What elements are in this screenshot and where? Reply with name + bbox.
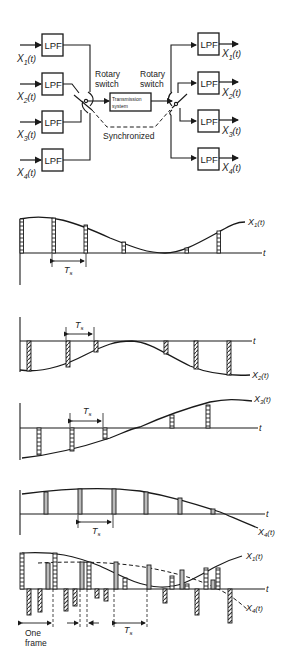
output-lpf-2: LPF X2(t) (198, 72, 241, 100)
left-switch-wiring (63, 45, 93, 160)
svg-text:LPF: LPF (201, 154, 219, 165)
svg-text:LPF: LPF (45, 79, 63, 90)
transmission-system-box: Transmission system (110, 93, 151, 111)
svg-text:Rotary: Rotary (140, 69, 166, 79)
svg-text:t: t (253, 336, 256, 346)
svg-text:t: t (266, 584, 269, 594)
ts-marker-4: Ts (78, 515, 113, 537)
svg-text:X1(t): X1(t) (247, 217, 265, 228)
block-diagram: LPF X1(t) LPF X2(t) LPF X3(t) LPF X4(t) (16, 33, 241, 180)
waveform-combined: One frame Ts t X1(t) X4(t) (20, 551, 269, 648)
svg-text:X3(t): X3(t) (221, 125, 241, 138)
svg-text:Ts: Ts (64, 265, 73, 276)
svg-text:X3(t): X3(t) (16, 129, 36, 142)
svg-text:t: t (259, 423, 262, 433)
svg-text:LPF: LPF (201, 39, 219, 50)
input-lpf-2: LPF X2(t) (16, 73, 63, 104)
ts-marker-1: Ts (52, 254, 86, 276)
right-rotary-switch-label: Rotary switch (140, 69, 166, 89)
svg-text:Ts: Ts (75, 320, 84, 331)
output-lpf-1: LPF X1(t) (198, 33, 241, 61)
svg-text:frame: frame (25, 638, 47, 648)
svg-text:X1(t): X1(t) (221, 48, 241, 61)
svg-text:X4(t): X4(t) (257, 527, 275, 538)
sync-link: Synchronized (92, 110, 170, 141)
output-lpf-4: LPF X4(t) (198, 148, 241, 175)
svg-text:X2(t): X2(t) (16, 91, 36, 104)
one-frame-label: One frame (25, 628, 47, 648)
svg-text:X1(t): X1(t) (16, 53, 36, 66)
ts-marker-3: Ts (70, 406, 103, 427)
svg-text:X3(t): X3(t) (253, 394, 271, 405)
svg-text:Ts: Ts (83, 406, 92, 417)
input-lpf-1: LPF X1(t) (16, 34, 63, 66)
svg-text:t: t (263, 248, 266, 258)
waveform-x3: Ts t X3(t) (20, 394, 271, 460)
svg-text:X1(t): X1(t) (245, 551, 263, 562)
svg-text:Synchronized: Synchronized (103, 131, 155, 141)
svg-text:switch: switch (140, 79, 164, 89)
svg-text:X4(t): X4(t) (221, 162, 241, 175)
svg-text:X2(t): X2(t) (251, 370, 269, 381)
svg-text:system: system (112, 103, 128, 109)
left-rotary-switch-label: Rotary switch (95, 69, 121, 89)
input-lpf-3: LPF X3(t) (16, 111, 63, 142)
tdm-figure: LPF X1(t) LPF X2(t) LPF X3(t) LPF X4(t) (0, 0, 295, 649)
svg-text:One: One (25, 628, 41, 638)
svg-text:LPF: LPF (45, 155, 63, 166)
svg-text:Transmission: Transmission (112, 96, 142, 102)
svg-text:X4(t): X4(t) (245, 603, 263, 614)
svg-text:LPF: LPF (201, 116, 219, 127)
waveform-x4: Ts t X4(t) (20, 488, 275, 538)
input-lpf-4: LPF X4(t) (16, 149, 63, 180)
right-switch-wiring (169, 45, 197, 158)
svg-text:X2(t): X2(t) (221, 87, 241, 100)
svg-text:LPF: LPF (45, 117, 63, 128)
svg-text:Rotary: Rotary (95, 69, 121, 79)
output-lpf-3: LPF X3(t) (198, 110, 241, 138)
svg-text:Ts: Ts (124, 625, 133, 636)
waveform-x2: Ts t X2(t) (20, 317, 269, 381)
svg-text:t: t (266, 509, 269, 519)
svg-text:switch: switch (95, 79, 119, 89)
waveform-x1: Ts t X1(t) (20, 217, 266, 285)
svg-text:LPF: LPF (45, 40, 63, 51)
svg-text:LPF: LPF (201, 78, 219, 89)
svg-text:Ts: Ts (92, 526, 101, 537)
ts-marker-2: Ts (66, 320, 94, 340)
svg-text:X4(t): X4(t) (16, 167, 36, 180)
